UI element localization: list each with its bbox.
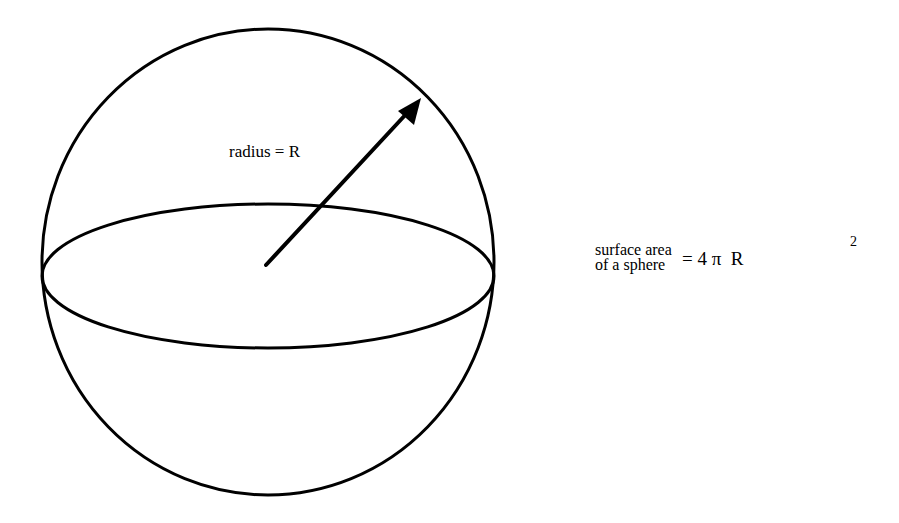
- formula-lhs: surface area of a sphere: [595, 242, 672, 272]
- formula-rhs: = 4 π R: [682, 250, 743, 267]
- formula-lhs-line1: surface area: [595, 242, 672, 257]
- formula-exponent: 2: [850, 233, 857, 250]
- radius-arrow-shaft: [266, 112, 408, 265]
- radius-label: radius = R: [229, 143, 300, 160]
- formula-lhs-line2: of a sphere: [595, 257, 672, 272]
- equator-ellipse: [42, 204, 494, 348]
- sphere-diagram: [0, 0, 899, 523]
